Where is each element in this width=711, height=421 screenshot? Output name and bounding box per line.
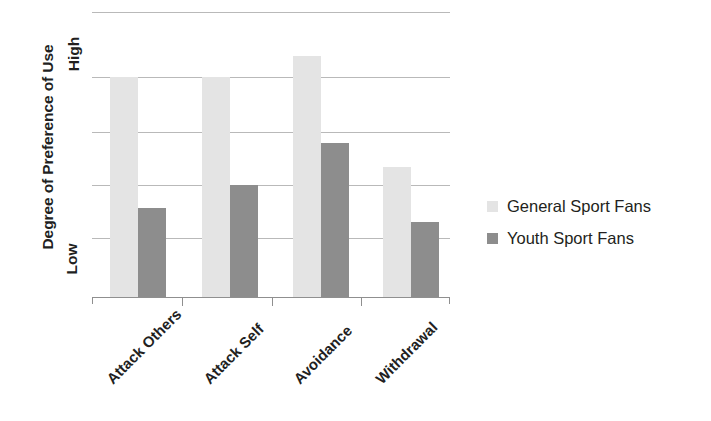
x-axis-left-cap	[92, 297, 93, 304]
legend-swatch-icon	[487, 233, 498, 244]
legend-item-general-sport-fans: General Sport Fans	[487, 190, 651, 222]
bar-general-sport-fans	[383, 167, 411, 298]
plot-area	[92, 12, 450, 298]
x-axis-category-label: Attack Others	[103, 305, 185, 387]
x-axis-right-cap	[449, 297, 450, 304]
legend-item-label: Youth Sport Fans	[507, 229, 634, 248]
x-axis-category-label: Avoidance	[290, 322, 355, 387]
x-axis-tick	[182, 297, 183, 306]
y-axis-low-label: Low	[63, 229, 81, 289]
x-axis-tick	[272, 297, 273, 306]
legend-swatch-icon	[487, 201, 498, 212]
bar-general-sport-fans	[293, 56, 321, 298]
bar-youth-sport-fans	[230, 185, 258, 298]
bar-youth-sport-fans	[138, 208, 166, 298]
x-axis-category-label: Withdrawal	[372, 319, 441, 388]
bar-youth-sport-fans	[411, 222, 439, 298]
y-axis-title: Degree of Preference of Use	[39, 7, 57, 287]
legend: General Sport Fans Youth Sport Fans	[487, 190, 651, 254]
legend-item-youth-sport-fans: Youth Sport Fans	[487, 222, 651, 254]
x-axis-category-label: Attack Self	[200, 320, 267, 387]
legend-item-label: General Sport Fans	[507, 197, 651, 216]
x-axis-tick	[361, 297, 362, 306]
x-axis-line	[92, 297, 450, 298]
bar-general-sport-fans	[110, 77, 138, 298]
chart-screenshot: Degree of Preference of Use High Low Att…	[0, 0, 711, 421]
y-axis-high-label: High	[65, 24, 83, 84]
gridline	[92, 12, 450, 13]
bar-youth-sport-fans	[321, 143, 349, 298]
gridline	[92, 77, 450, 78]
gridline	[92, 132, 450, 133]
bar-general-sport-fans	[202, 77, 230, 298]
